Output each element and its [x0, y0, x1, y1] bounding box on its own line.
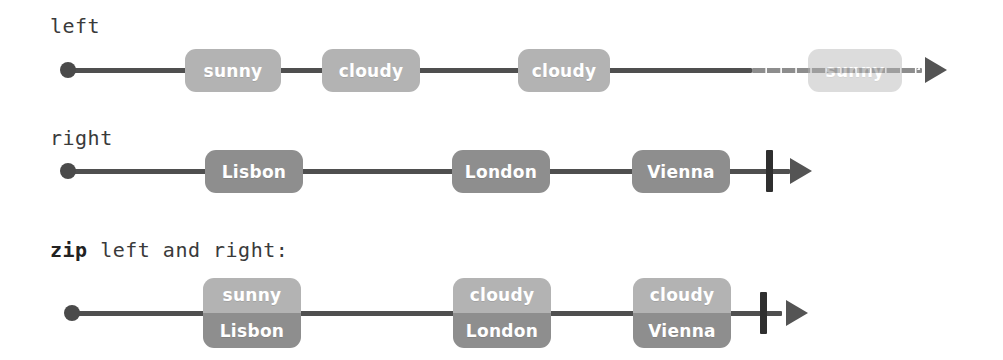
stream-arrow-icon-right: [790, 158, 812, 184]
row-label-keyword-zip: zip: [50, 238, 88, 262]
marble-zip-3-value-top: cloudy: [633, 278, 731, 313]
marble-right-vienna[interactable]: Vienna: [632, 150, 730, 193]
marble-diagram-canvas: leftsunnycloudycloudysunnyrightLisbonLon…: [0, 0, 1003, 360]
marble-zip-3[interactable]: cloudyVienna: [633, 278, 731, 348]
stream-start-dot-right: [60, 163, 76, 179]
stream-start-dot-left: [60, 62, 76, 78]
marble-zip-2[interactable]: cloudyLondon: [453, 278, 551, 348]
row-label-right: right: [50, 126, 113, 150]
marble-zip-1[interactable]: sunnyLisbon: [203, 278, 301, 348]
marble-right-london[interactable]: London: [452, 150, 550, 193]
row-label-left: left: [50, 14, 100, 38]
marble-zip-2-value-bottom: London: [453, 313, 551, 348]
marble-left-cloudy-2[interactable]: cloudy: [518, 49, 610, 92]
marble-zip-3-value-bottom: Vienna: [633, 313, 731, 348]
marble-left-sunny-2[interactable]: sunny: [808, 49, 902, 92]
stream-complete-bar-right: [766, 150, 773, 192]
marble-left-sunny-2-value: sunny: [825, 61, 884, 81]
marble-right-vienna-value: Vienna: [647, 162, 715, 182]
marble-left-cloudy-1[interactable]: cloudy: [322, 49, 420, 92]
marble-left-cloudy-2-value: cloudy: [532, 61, 597, 81]
marble-zip-1-value-bottom: Lisbon: [203, 313, 301, 348]
row-label-zip: zip left and right:: [50, 238, 288, 262]
stream-complete-bar-zip: [760, 292, 767, 334]
marble-left-sunny-1[interactable]: sunny: [185, 49, 281, 92]
marble-zip-1-value-top: sunny: [203, 278, 301, 313]
marble-zip-2-value-top: cloudy: [453, 278, 551, 313]
marble-right-london-value: London: [465, 162, 537, 182]
marble-left-cloudy-1-value: cloudy: [339, 61, 404, 81]
marble-right-lisbon-value: Lisbon: [222, 162, 287, 182]
stream-arrow-icon-zip: [786, 300, 808, 326]
row-label-rest-zip: left and right:: [88, 238, 289, 262]
stream-arrow-icon-left: [925, 57, 947, 83]
marble-left-sunny-1-value: sunny: [203, 61, 262, 81]
row-label-text-left: left: [50, 14, 100, 38]
stream-start-dot-zip: [64, 305, 80, 321]
row-label-text-right: right: [50, 126, 113, 150]
marble-right-lisbon[interactable]: Lisbon: [205, 150, 303, 193]
